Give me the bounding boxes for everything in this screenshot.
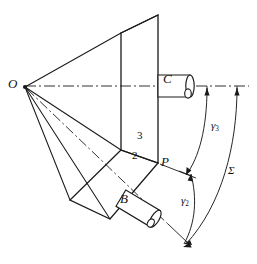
- generatrix-to-plane-bottomleft: [25, 87, 121, 150]
- label-plane-3: 3: [137, 130, 143, 141]
- label-angle-gamma2: γ2: [181, 195, 189, 208]
- arc-gamma2: [184, 174, 195, 244]
- radial-line-from-b: [168, 224, 188, 243]
- radial-line-b-group: [168, 224, 188, 243]
- cylinder-c-end-ellipse: [185, 89, 192, 98]
- label-angle-gamma2-subscript: 2: [185, 200, 189, 208]
- label-apex-o: O: [8, 77, 17, 90]
- label-angle-gamma3: γ3: [211, 120, 219, 133]
- label-angle-gamma3-subscript: 3: [215, 125, 219, 133]
- label-plane-2: 2: [132, 150, 138, 161]
- label-angle-sigma: Σ: [228, 165, 235, 176]
- label-cylinder-c: C: [163, 72, 172, 85]
- radial-tick-outer-p: [179, 171, 192, 176]
- label-cylinder-b: B: [120, 192, 128, 205]
- arc-gamma3-group: [186, 86, 210, 175]
- generatrix-upper-to-plane-topleft: [25, 33, 121, 87]
- arc-gamma2-group: [184, 174, 195, 245]
- diagram-canvas: O C B P 3 2 γ3 γ2 Σ: [0, 0, 257, 264]
- generatrix-to-inclined-bottom: [25, 87, 110, 219]
- arc-gamma3: [186, 88, 207, 175]
- generatrix-to-inclined-corner: [25, 87, 70, 200]
- cone-generatrix-lines: [25, 15, 158, 219]
- apex-marker: [23, 85, 27, 89]
- apex-dot: [23, 85, 27, 89]
- label-point-p: P: [161, 155, 169, 168]
